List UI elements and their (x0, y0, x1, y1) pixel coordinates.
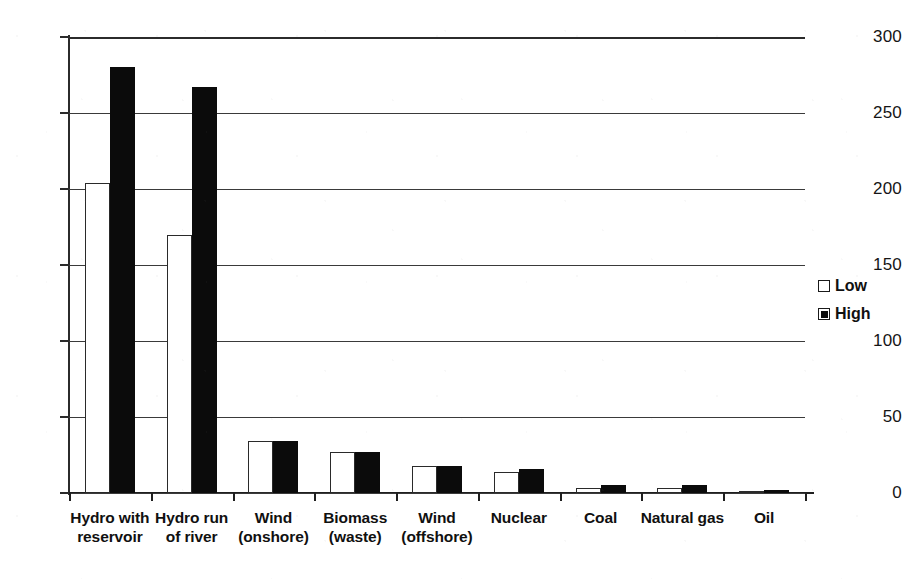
y-tick-label-150: 150 (850, 256, 902, 273)
bar-high-5 (519, 469, 544, 493)
bar-low-7 (657, 488, 682, 493)
bar-low-5 (494, 472, 519, 493)
plot-area (69, 37, 805, 493)
bar-high-6 (601, 485, 626, 493)
bar-high-0 (110, 67, 135, 493)
x-axis-label-8: Oil (713, 508, 815, 527)
bar-low-3 (330, 452, 355, 493)
gridline-250 (69, 113, 805, 114)
bar-low-4 (412, 466, 437, 493)
x-tick-mark-1 (151, 493, 153, 501)
x-tick-mark-9 (805, 493, 807, 501)
bar-high-2 (273, 441, 298, 493)
y-tick-label-250: 250 (850, 104, 902, 121)
y-tick-label-200: 200 (850, 180, 902, 197)
y-tick-label-300: 300 (850, 28, 902, 45)
y-tick-label-100: 100 (850, 332, 902, 349)
x-tick-mark-5 (478, 493, 480, 501)
x-tick-mark-4 (396, 493, 398, 501)
x-tick-mark-7 (641, 493, 643, 501)
chart-legend: Low High (818, 272, 898, 328)
x-axis-label-line: (offshore) (386, 527, 488, 546)
legend-label-high: High (835, 306, 871, 322)
bar-low-6 (576, 488, 601, 493)
bar-low-1 (167, 235, 192, 493)
y-tick-mark-250 (60, 112, 69, 114)
y-tick-label-0: 0 (850, 484, 902, 501)
gridline-0 (69, 493, 805, 494)
y-tick-mark-300 (60, 36, 69, 38)
gridline-300 (69, 37, 805, 39)
bar-high-7 (682, 485, 707, 493)
y-tick-label-50: 50 (850, 408, 902, 425)
y-tick-mark-0 (60, 492, 69, 494)
y-tick-mark-50 (60, 416, 69, 418)
y-tick-mark-150 (60, 264, 69, 266)
bar-high-4 (437, 466, 462, 493)
bar-low-8 (739, 491, 764, 493)
legend-label-low: Low (835, 278, 867, 294)
legend-item-low: Low (818, 272, 898, 300)
open-square-icon (818, 280, 830, 292)
bar-high-1 (192, 87, 217, 493)
bar-high-3 (355, 452, 380, 493)
x-tick-mark-8 (723, 493, 725, 501)
y-tick-mark-200 (60, 188, 69, 190)
gridline-200 (69, 189, 805, 190)
filled-square-icon (818, 308, 830, 320)
bar-low-2 (248, 441, 273, 493)
bar-chart: 050100150200250300 Hydro withreservoirHy… (0, 0, 902, 579)
y-tick-mark-100 (60, 340, 69, 342)
x-axis-label-line: Oil (713, 508, 815, 527)
x-tick-mark-3 (314, 493, 316, 501)
x-tick-mark-0 (69, 493, 71, 501)
x-tick-mark-6 (560, 493, 562, 501)
x-tick-mark-2 (233, 493, 235, 501)
legend-item-high: High (818, 300, 898, 328)
bar-high-8 (764, 490, 789, 493)
bar-low-0 (85, 183, 110, 493)
